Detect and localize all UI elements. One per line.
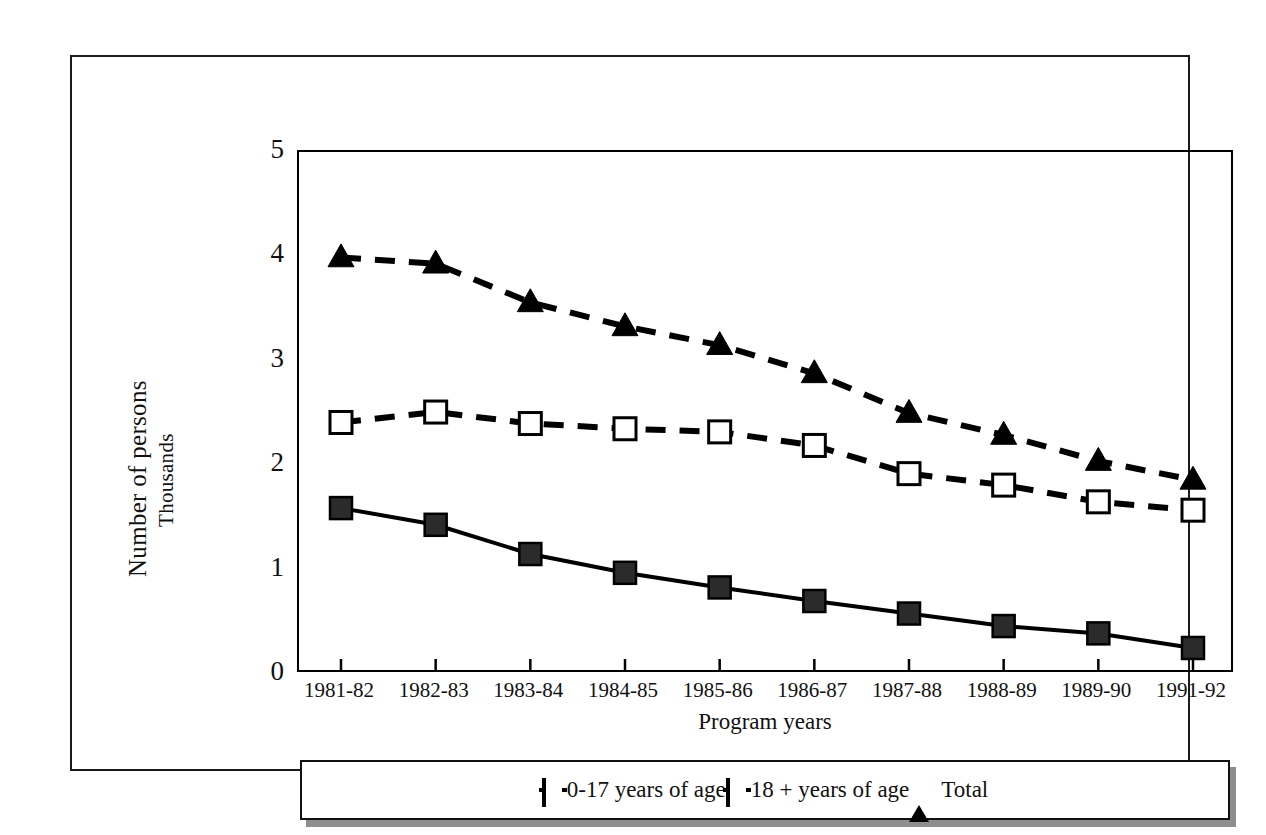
legend-label: 18 + years of age — [751, 777, 910, 803]
y-axis-tick-label: 3 — [244, 345, 284, 372]
data-point-marker — [993, 615, 1015, 637]
legend-line-stub-right — [746, 788, 751, 792]
legend-entry[interactable]: 18 + years of age — [726, 777, 910, 803]
data-point-marker — [993, 474, 1015, 496]
legend-marker-open-square-icon — [726, 780, 748, 800]
legend-marker-shape — [726, 778, 730, 807]
plot-area — [297, 150, 1233, 672]
y-axis-tick-label: 4 — [244, 240, 284, 267]
legend-marker-shape — [909, 780, 929, 822]
series-line — [341, 412, 1193, 510]
data-point-marker — [898, 463, 920, 485]
data-point-marker — [519, 413, 541, 435]
data-point-marker — [898, 603, 920, 625]
legend-line-stub-right — [562, 788, 567, 792]
legend-marker-filled-triangle-icon — [909, 780, 931, 800]
data-point-marker — [425, 514, 447, 536]
x-axis-title: Program years — [297, 709, 1233, 735]
y-axis-tick-labels: 543210 — [232, 57, 284, 773]
legend-line-stub-left — [539, 788, 544, 792]
data-point-marker — [330, 497, 352, 519]
data-point-marker — [1180, 466, 1206, 489]
y-axis-tick-label: 0 — [244, 658, 284, 685]
legend-marker-shape — [542, 778, 546, 807]
data-point-marker — [1087, 491, 1109, 513]
data-point-marker — [330, 411, 352, 433]
x-axis-tick-labels: 1981-821982-831983-841984-851985-861986-… — [297, 679, 1233, 713]
legend: 0-17 years of age18 + years of ageTotal — [300, 760, 1230, 820]
legend-marker-filled-square-icon — [542, 780, 564, 800]
data-point-marker — [709, 421, 731, 443]
legend-line-stub-left — [723, 788, 728, 792]
data-point-marker — [614, 418, 636, 440]
data-point-marker — [803, 434, 825, 456]
legend-items: 0-17 years of age18 + years of ageTotal — [542, 777, 989, 803]
legend-label: 0-17 years of age — [567, 777, 726, 803]
y-axis-tick-label: 1 — [244, 554, 284, 581]
y-axis-title: Number of persons — [124, 380, 152, 577]
data-point-marker — [1182, 499, 1204, 521]
y-axis-tick-label: 2 — [244, 449, 284, 476]
data-point-marker — [519, 543, 541, 565]
y-axis-tick-label: 5 — [244, 136, 284, 163]
data-point-marker — [425, 401, 447, 423]
data-point-marker — [1182, 637, 1204, 659]
data-point-marker — [1085, 447, 1111, 470]
figure-frame: Number of persons Thousands 543210 1981-… — [70, 55, 1190, 771]
data-point-marker — [614, 562, 636, 584]
legend-entry[interactable]: 0-17 years of age — [542, 777, 726, 803]
series-line — [341, 258, 1193, 480]
data-point-marker — [1087, 622, 1109, 644]
series-line — [341, 508, 1193, 648]
legend-label: Total — [934, 777, 988, 803]
data-point-marker — [803, 590, 825, 612]
legend-entry[interactable]: Total — [909, 777, 988, 803]
y-axis-units-label: Thousands — [154, 433, 179, 527]
data-point-marker — [709, 576, 731, 598]
plot-svg — [299, 150, 1235, 672]
x-axis-tick-label: 1991-92 — [1131, 679, 1251, 702]
